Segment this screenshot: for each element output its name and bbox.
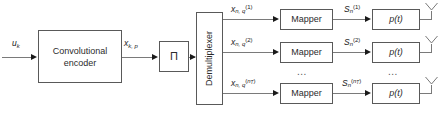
signal-label-mapper-output-2: Sn(2) — [344, 36, 360, 49]
block-pulse-shaper-3[interactable]: p(t) — [372, 83, 420, 104]
wire-demux-to-mapper-1 — [223, 19, 275, 20]
arrow-mapper-to-pulse-2 — [365, 49, 371, 55]
signal-label-demux-output-1: xn, q(1) — [231, 3, 253, 16]
arrow-demux-to-mapper-1 — [273, 16, 279, 22]
block-convolutional-encoder[interactable]: Convolutional encoder — [38, 30, 122, 83]
pulse-shaper-1-label: p(t) — [389, 14, 403, 25]
arrow-mapper-to-pulse-3 — [365, 90, 371, 96]
wire-encoder-to-interleaver — [122, 57, 153, 58]
wire-demux-to-mapper-3 — [223, 93, 275, 94]
wire-demux-to-mapper-2 — [223, 52, 275, 53]
mapper-2-label: Mapper — [291, 47, 322, 58]
arrow-mapper-to-pulse-1 — [365, 16, 371, 22]
mapper-1-label: Mapper — [291, 14, 322, 25]
wire-mapper-to-pulse-1 — [333, 19, 367, 20]
signal-label-demux-output-2: xn, q(2) — [231, 36, 253, 49]
arrow-demux-to-mapper-3 — [273, 90, 279, 96]
ellipsis-pulse-column: ... — [388, 68, 398, 76]
block-demultiplexer[interactable]: Demultiplexer — [196, 12, 223, 105]
block-pulse-shaper-2[interactable]: p(t) — [372, 42, 420, 63]
arrow-demux-to-mapper-2 — [273, 49, 279, 55]
wire-mapper-to-pulse-3 — [333, 93, 367, 94]
signal-label-demux-output-3: xn, q(nT) — [231, 77, 255, 90]
ellipsis-mapper-column: ... — [297, 68, 307, 76]
block-mapper-1[interactable]: Mapper — [280, 9, 333, 30]
pulse-shaper-3-label: p(t) — [389, 88, 403, 99]
block-interleaver[interactable]: Π — [159, 41, 189, 72]
block-mapper-2[interactable]: Mapper — [280, 42, 333, 63]
arrow-input — [31, 54, 37, 60]
interleaver-label: Π — [170, 51, 178, 62]
antenna-icon-3 — [424, 76, 440, 87]
antenna-icon-2 — [424, 35, 440, 46]
wire-mapper-to-pulse-2 — [333, 52, 367, 53]
encoder-label-line1: Convolutional — [53, 45, 108, 57]
demultiplexer-label: Demultiplexer — [204, 31, 215, 86]
antenna-icon-1 — [424, 2, 440, 13]
signal-label-mapper-output-3: Sn(nT) — [342, 77, 361, 90]
arrow-encoder-to-interleaver — [152, 54, 158, 60]
signal-label-encoder-output: xk, p — [124, 39, 138, 51]
wire-input — [2, 57, 32, 58]
encoder-label-line2: encoder — [53, 57, 108, 69]
pulse-shaper-2-label: p(t) — [389, 47, 403, 58]
signal-label-mapper-output-1: Sn(1) — [344, 3, 360, 16]
block-pulse-shaper-1[interactable]: p(t) — [372, 9, 420, 30]
block-diagram: uk Convolutional encoder xk, p Π Demulti… — [0, 0, 443, 115]
signal-label-input: uk — [12, 39, 20, 51]
block-mapper-3[interactable]: Mapper — [280, 83, 333, 104]
mapper-3-label: Mapper — [291, 88, 322, 99]
